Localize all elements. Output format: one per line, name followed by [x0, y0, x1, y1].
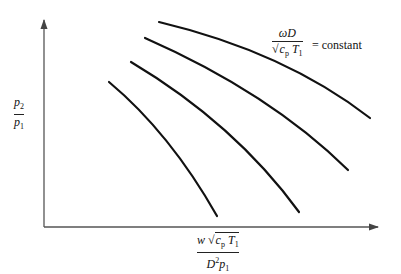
constant-speed-annotation: ωD √cp T1	[272, 27, 303, 60]
legend-sqrt: cp T1	[279, 41, 303, 56]
y-label-denominator-sub: 1	[20, 123, 24, 132]
speed-curve-2	[131, 62, 299, 212]
x-label-sqrt: cp T1	[215, 232, 239, 247]
y-axis-label: p2 p1	[14, 96, 24, 134]
legend-T: T	[289, 42, 299, 56]
legend-equals-constant: = constant	[312, 38, 362, 53]
legend-T-sub: 1	[299, 49, 303, 58]
x-label-T-sub: 1	[235, 240, 239, 249]
x-label-D: D	[206, 257, 215, 271]
legend-numerator: ωD	[279, 26, 296, 40]
y-label-numerator-sub: 2	[20, 102, 24, 111]
x-axis-label: w √cp T1 D2p1	[197, 234, 239, 274]
x-label-p-sub: 1	[225, 265, 229, 274]
speed-curve-1	[109, 82, 217, 216]
fraction-bar	[197, 252, 239, 253]
x-label-w: w	[197, 233, 208, 247]
x-label-T: T	[225, 233, 235, 247]
